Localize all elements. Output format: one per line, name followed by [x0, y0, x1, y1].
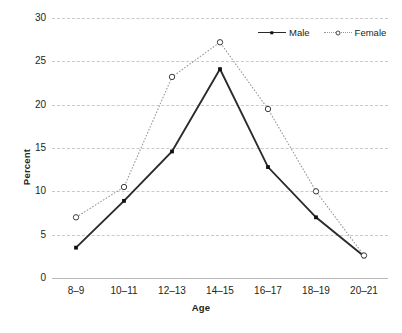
y-tick-label-25: 25: [6, 56, 46, 66]
data-point-female-6: [361, 253, 366, 258]
data-point-male-4: [266, 165, 270, 169]
data-point-male-0: [74, 246, 78, 250]
y-tick-label-30: 30: [6, 13, 46, 23]
chart-figure: Percent 051015202530 8–910–1112–1314–151…: [0, 0, 402, 333]
legend-swatch-male: [258, 28, 286, 37]
data-point-male-3: [218, 67, 222, 71]
legend-swatch-female: [324, 28, 352, 37]
series-line-female: [76, 42, 364, 255]
open-circle-marker-icon: [335, 30, 340, 35]
data-point-female-3: [217, 40, 222, 45]
gridline-0: [52, 278, 388, 279]
chart-legend: Male Female: [258, 27, 386, 38]
legend-entry-male: Male: [258, 27, 310, 38]
series-line-male: [76, 69, 364, 256]
legend-label-male: Male: [289, 27, 310, 38]
data-point-male-5: [314, 215, 318, 219]
data-point-female-4: [265, 106, 270, 111]
data-point-female-5: [313, 189, 318, 194]
y-tick-label-20: 20: [6, 100, 46, 110]
data-point-male-1: [122, 199, 126, 203]
filled-square-marker-icon: [270, 31, 273, 34]
y-tick-label-10: 10: [6, 186, 46, 196]
y-tick-label-5: 5: [6, 230, 46, 240]
series-layer: [52, 18, 388, 278]
legend-label-female: Female: [355, 27, 387, 38]
y-tick-label-15: 15: [6, 143, 46, 153]
plot-area: [52, 18, 388, 278]
x-axis-title: Age: [0, 302, 402, 313]
data-point-female-2: [169, 74, 174, 79]
data-point-male-2: [170, 150, 174, 154]
data-point-female-0: [73, 215, 78, 220]
y-tick-label-0: 0: [6, 273, 46, 283]
legend-entry-female: Female: [324, 27, 387, 38]
y-axis-title: Percent: [21, 148, 32, 184]
x-tick-label-6: 20–21: [334, 286, 394, 296]
data-point-female-1: [121, 184, 126, 189]
